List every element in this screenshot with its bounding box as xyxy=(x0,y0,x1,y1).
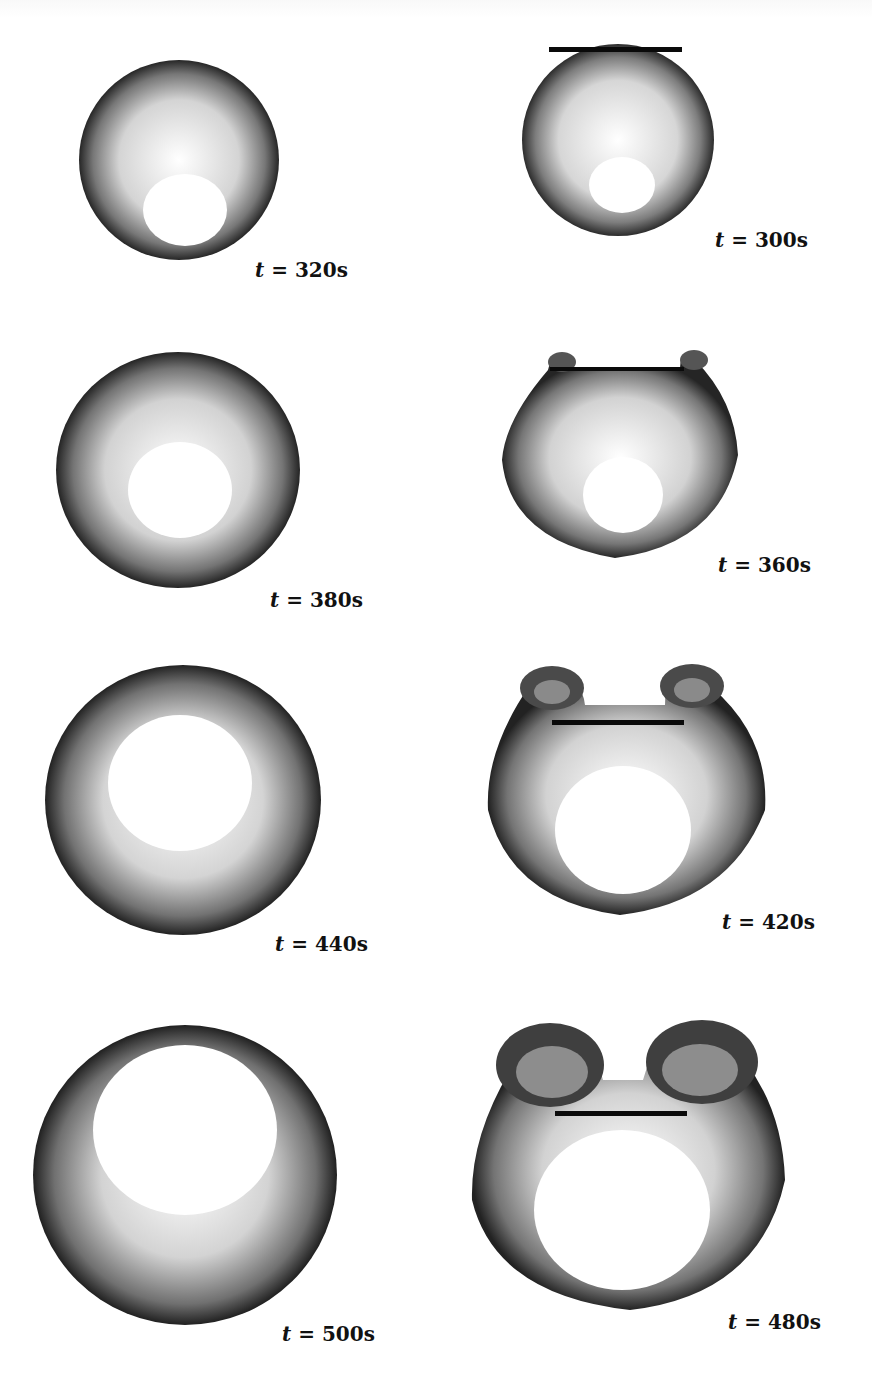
particle-droplet-t420 xyxy=(480,640,840,940)
panel-t420: t = 420s xyxy=(480,640,840,940)
panel-t480: t = 480s xyxy=(480,1000,840,1380)
particle-droplet-t440 xyxy=(20,640,400,980)
plate-t300 xyxy=(549,47,682,52)
panel-t380: t = 380s xyxy=(40,320,400,620)
panel-t320: t = 320s xyxy=(60,60,380,300)
caption-t440: t = 440s xyxy=(275,932,368,956)
plate-t420 xyxy=(552,720,684,725)
caption-t300: t = 300s xyxy=(715,228,808,252)
panel-t360: t = 360s xyxy=(480,300,840,590)
panel-t440: t = 440s xyxy=(20,640,400,980)
caption-t420: t = 420s xyxy=(722,910,815,934)
panel-t300: t = 300s xyxy=(500,30,840,270)
plate-t480 xyxy=(555,1111,687,1116)
panel-t500: t = 500s xyxy=(20,1000,400,1380)
particle-droplet-t360 xyxy=(480,300,840,590)
plate-t360 xyxy=(550,367,684,371)
caption-t360: t = 360s xyxy=(718,553,811,577)
caption-t500: t = 500s xyxy=(282,1322,375,1346)
caption-t480: t = 480s xyxy=(728,1310,821,1334)
caption-t380: t = 380s xyxy=(270,588,363,612)
particle-droplet-t380 xyxy=(40,320,400,620)
page-bleed-through xyxy=(0,0,872,18)
caption-t320: t = 320s xyxy=(255,258,348,282)
